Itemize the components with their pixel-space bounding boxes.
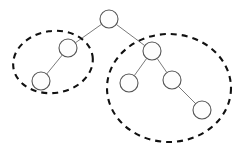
- diagram-canvas: [0, 0, 237, 146]
- tree-edge-R1-R2: [134, 58, 147, 75]
- tree-node-R3: [163, 71, 181, 89]
- tree-edge-L1-L2: [47, 55, 63, 74]
- tree-node-R2: [120, 74, 138, 92]
- tree-diagram: [0, 0, 237, 146]
- tree-node-root: [100, 10, 118, 28]
- tree-edge-root-R1: [116, 24, 145, 45]
- tree-node-R1: [143, 42, 161, 60]
- tree-edge-R3-R4: [178, 86, 195, 103]
- edges-layer: [47, 24, 196, 103]
- tree-node-L2: [32, 72, 50, 90]
- tree-node-L1: [59, 39, 77, 57]
- nodes-layer: [32, 10, 211, 119]
- tree-edge-root-L1: [75, 24, 101, 43]
- tree-edge-R1-R3: [157, 58, 167, 72]
- tree-node-R4: [193, 101, 211, 119]
